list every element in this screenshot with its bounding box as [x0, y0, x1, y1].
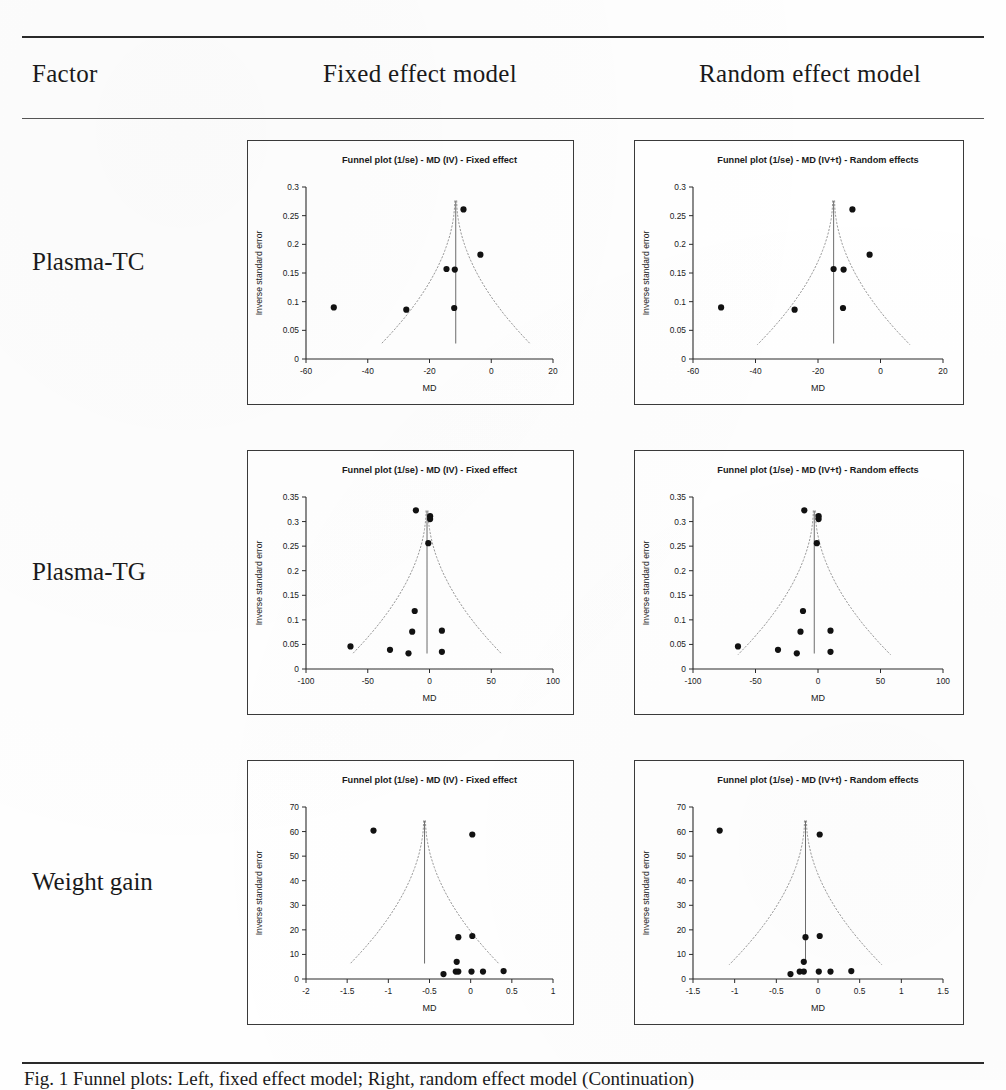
y-tick-label: 0.05 [283, 639, 300, 649]
data-point [425, 540, 431, 546]
column-header-factor: Factor [32, 60, 98, 88]
y-tick-label: 0 [294, 354, 299, 364]
funnel-plot-plasma-tg-fixed: Funnel plot (1/se) - MD (IV) - Fixed eff… [247, 450, 574, 715]
y-tick-label: 0.25 [670, 541, 687, 551]
x-axis-label: MD [423, 383, 437, 393]
x-tick-label: 0 [816, 676, 821, 686]
y-tick-label: 0.15 [283, 590, 300, 600]
table-bottom-rule [22, 1062, 984, 1064]
data-point [849, 206, 855, 212]
data-point [460, 206, 466, 212]
y-axis-label: Inverse standard error [641, 231, 651, 316]
x-tick-label: 20 [938, 366, 948, 376]
data-point [501, 968, 507, 974]
data-point [468, 969, 474, 975]
data-point [440, 971, 446, 977]
y-tick-label: 60 [677, 827, 687, 837]
funnel-contour-right [428, 511, 502, 655]
y-tick-label: 0.3 [674, 182, 686, 192]
data-point [403, 307, 409, 313]
data-point [413, 507, 419, 513]
data-point [452, 267, 458, 273]
x-axis-label: MD [423, 1003, 437, 1013]
y-tick-label: 30 [290, 900, 300, 910]
x-axis-label: MD [811, 383, 825, 393]
y-tick-label: 0.25 [283, 541, 300, 551]
x-tick-label: 0 [878, 366, 883, 376]
y-tick-label: 0.2 [287, 566, 299, 576]
data-point [477, 252, 483, 258]
data-point [801, 959, 807, 965]
data-point [451, 305, 457, 311]
y-axis-label: Inverse standard error [254, 231, 264, 316]
data-point [331, 304, 337, 310]
y-tick-label: 0 [294, 974, 299, 984]
data-point [735, 643, 741, 649]
x-tick-label: -100 [685, 676, 702, 686]
data-point [455, 969, 461, 975]
y-tick-label: 40 [290, 876, 300, 886]
funnel-contour-right [457, 201, 531, 345]
y-tick-label: 0.1 [674, 297, 686, 307]
y-tick-label: 0.15 [283, 268, 300, 278]
x-tick-label: 0.5 [854, 986, 866, 996]
data-point [427, 516, 433, 522]
data-point [405, 650, 411, 656]
y-axis-label: Inverse standard error [254, 541, 264, 626]
funnel-contour-right [426, 821, 500, 965]
y-tick-label: 0.1 [674, 615, 686, 625]
y-tick-label: 0.1 [287, 297, 299, 307]
y-tick-label: 0 [294, 664, 299, 674]
x-tick-label: 20 [548, 366, 558, 376]
funnel-contour-left [730, 821, 805, 965]
x-tick-label: 50 [487, 676, 497, 686]
data-point [848, 968, 854, 974]
x-axis-label: MD [423, 693, 437, 703]
data-point [867, 252, 873, 258]
y-tick-label: 0.35 [283, 492, 300, 502]
data-point [412, 608, 418, 614]
x-tick-label: -40 [362, 366, 374, 376]
data-point [827, 649, 833, 655]
data-point [439, 649, 445, 655]
data-point [814, 540, 820, 546]
x-tick-label: 100 [546, 676, 560, 686]
x-tick-label: 0.5 [506, 986, 518, 996]
data-point [801, 507, 807, 513]
row-label-plasma-tg: Plasma-TG [32, 558, 146, 586]
y-tick-label: 40 [677, 876, 687, 886]
data-point [801, 969, 807, 975]
y-tick-label: 0.1 [287, 615, 299, 625]
x-tick-label: -20 [423, 366, 435, 376]
column-header-fixed-effect: Fixed effect model [260, 60, 580, 88]
data-point [347, 643, 353, 649]
funnel-contour-left [758, 201, 833, 345]
funnel-plot-plasma-tc-fixed: Funnel plot (1/se) - MD (IV) - Fixed eff… [247, 140, 574, 405]
x-tick-label: 0 [468, 986, 473, 996]
funnel-plot-plasma-tg-random: Funnel plot (1/se) - MD (IV+t) - Random … [634, 450, 964, 715]
data-point [827, 628, 833, 634]
y-tick-label: 10 [290, 949, 300, 959]
data-point [816, 969, 822, 975]
x-tick-label: -1 [385, 986, 393, 996]
data-point [797, 629, 803, 635]
y-tick-label: 0.2 [674, 566, 686, 576]
funnel-contour-left [381, 201, 455, 345]
y-tick-label: 0.35 [670, 492, 687, 502]
y-tick-label: 30 [677, 900, 687, 910]
data-point [787, 971, 793, 977]
y-tick-label: 0.05 [670, 639, 687, 649]
y-tick-label: 0.25 [670, 211, 687, 221]
row-label-weight-gain: Weight gain [32, 868, 153, 896]
y-tick-label: 20 [677, 925, 687, 935]
data-point [439, 628, 445, 634]
funnel-contour-right [815, 511, 890, 655]
data-point [409, 629, 415, 635]
data-point [469, 933, 475, 939]
y-tick-label: 0.2 [287, 239, 299, 249]
x-tick-label: -1.5 [340, 986, 355, 996]
data-point [817, 933, 823, 939]
x-tick-label: 0 [427, 676, 432, 686]
x-tick-label: -60 [300, 366, 312, 376]
